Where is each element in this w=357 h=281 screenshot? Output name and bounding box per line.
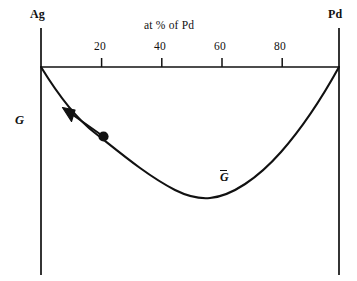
free-energy-diagram: Ag Pd at % of Pd 20 40 60 80 G G xyxy=(0,0,357,281)
curve-label-text: G xyxy=(220,170,229,183)
tick-label-40: 40 xyxy=(154,41,166,53)
diagram-canvas xyxy=(0,0,357,281)
axis-ticks xyxy=(102,58,283,67)
composition-point xyxy=(98,131,108,141)
tick-label-20: 20 xyxy=(94,41,106,53)
free-energy-curve xyxy=(41,67,339,198)
left-endpoint-label: Ag xyxy=(30,8,45,20)
vertical-axis-label: G xyxy=(15,114,24,127)
tangent-arrow-shaft xyxy=(70,113,104,137)
right-endpoint-label: Pd xyxy=(328,8,342,20)
tick-label-80: 80 xyxy=(274,41,286,53)
tangent-arrow xyxy=(63,108,104,137)
top-axis-title: at % of Pd xyxy=(144,20,194,32)
tangent-arrow-head xyxy=(63,108,76,122)
tick-label-60: 60 xyxy=(214,41,226,53)
axis-lines xyxy=(41,28,339,275)
curve-label: G xyxy=(220,170,229,183)
